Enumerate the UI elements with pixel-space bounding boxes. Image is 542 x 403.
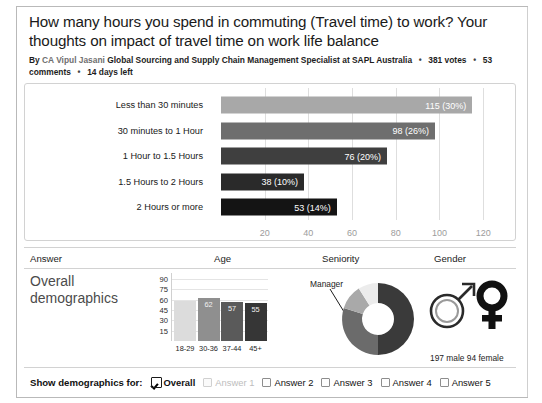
age-bar-45+[interactable]: 55 xyxy=(245,303,267,341)
demographics-option-label: Overall xyxy=(163,377,195,388)
bar-category-label: 30 minutes to 1 Hour xyxy=(25,126,211,136)
bar-row: Less than 30 minutes115 (30%) xyxy=(25,92,515,118)
card-frame: How many hours you spend in commuting (T… xyxy=(16,6,528,398)
age-y-tick-60: 60 xyxy=(150,295,168,304)
days-left: 14 days left xyxy=(87,67,133,77)
bar-value-label: 115 (30%) xyxy=(425,100,466,110)
demographics-option-answer-1[interactable]: Answer 1 xyxy=(203,377,254,388)
bar-segment[interactable]: 53 (14%) xyxy=(221,199,337,216)
bar-category-label: 2 Hours or more xyxy=(25,202,211,212)
column-header-gender: Gender xyxy=(434,253,466,264)
seniority-donut-chart: Manager xyxy=(310,271,430,366)
bar-row: 30 minutes to 1 Hour98 (26%) xyxy=(25,118,515,144)
demographics-option-label: Answer 2 xyxy=(274,377,313,388)
age-y-tick-15: 15 xyxy=(150,326,168,335)
bar-value-label: 76 (20%) xyxy=(344,151,381,161)
bar-segment[interactable]: 76 (20%) xyxy=(221,148,387,165)
vote-count: 381 votes xyxy=(428,55,466,65)
age-y-tick-75: 75 xyxy=(150,285,168,294)
checkbox-icon[interactable] xyxy=(321,378,330,387)
bar-chart-plot-area: 20406080100120Less than 30 minutes115 (3… xyxy=(25,84,515,240)
bar-segment[interactable]: 115 (30%) xyxy=(221,97,472,114)
demographics-option-overall[interactable]: Overall xyxy=(151,377,195,388)
manager-annotation-label: Manager xyxy=(310,279,343,289)
age-category-label: 45+ xyxy=(245,344,267,353)
gender-symbols-svg xyxy=(424,273,516,335)
age-bar-value-label: 57 xyxy=(221,304,243,313)
bar-category-label: Less than 30 minutes xyxy=(25,100,211,110)
byline: By CA Vipul Jasani Global Sourcing and S… xyxy=(29,55,511,78)
bar-category-label: 1.5 Hours to 2 Hours xyxy=(25,177,211,187)
age-gridline-75 xyxy=(172,289,268,290)
age-bar-value-label: 55 xyxy=(245,305,267,314)
age-y-tick-30: 30 xyxy=(150,316,168,325)
demographics-option-label: Answer 4 xyxy=(393,377,432,388)
demographics-option-answer-5[interactable]: Answer 5 xyxy=(440,377,491,388)
bar-value-label: 98 (26%) xyxy=(393,126,430,136)
demographics-option-label: Answer 1 xyxy=(215,377,254,388)
checkbox-icon[interactable] xyxy=(440,378,449,387)
x-axis-tick-80: 80 xyxy=(391,228,401,238)
demographics-option-answer-2[interactable]: Answer 2 xyxy=(262,377,313,388)
female-symbol-icon xyxy=(480,284,504,329)
bar-value-label: 38 (10%) xyxy=(261,177,298,187)
checkbox-icon[interactable] xyxy=(381,378,390,387)
x-axis-tick-40: 40 xyxy=(303,228,313,238)
x-axis-tick-100: 100 xyxy=(432,228,447,238)
page-title: How many hours you spend in commuting (T… xyxy=(29,12,507,50)
gender-caption: 197 male 94 female xyxy=(430,353,504,363)
bar-segment[interactable]: 38 (10%) xyxy=(221,173,304,190)
bar-row: 1 Hour to 1.5 Hours76 (20%) xyxy=(25,143,515,169)
bar-segment[interactable]: 98 (26%) xyxy=(221,122,435,139)
donut-slice-manager xyxy=(342,308,378,355)
bar-value-label: 53 (14%) xyxy=(294,202,331,212)
demographics-option-answer-4[interactable]: Answer 4 xyxy=(381,377,432,388)
overall-demographics-label: Overall demographics xyxy=(30,273,148,307)
author-name[interactable]: CA Vipul Jasani xyxy=(42,55,105,65)
results-bar-chart: 20406080100120Less than 30 minutes115 (3… xyxy=(24,83,516,241)
age-bar-30-36[interactable]: 62 xyxy=(198,298,220,341)
bar-category-label: 1 Hour to 1.5 Hours xyxy=(25,151,211,161)
age-category-label: 37-44 xyxy=(221,344,243,353)
age-y-axis xyxy=(171,273,172,341)
demographics-option-answer-3[interactable]: Answer 3 xyxy=(321,377,372,388)
byline-separator-1: • xyxy=(414,55,426,65)
column-header-seniority: Seniority xyxy=(322,253,359,264)
checkbox-icon[interactable] xyxy=(262,378,271,387)
byline-separator-2: • xyxy=(469,55,481,65)
byline-separator-3: • xyxy=(73,67,85,77)
age-y-tick-45: 45 xyxy=(150,306,168,315)
x-axis-tick-120: 120 xyxy=(476,228,491,238)
demographics-checkbox-group: OverallAnswer 1Answer 2Answer 3Answer 4A… xyxy=(151,377,498,388)
demographics-option-label: Answer 3 xyxy=(333,377,372,388)
bar-row: 1.5 Hours to 2 Hours38 (10%) xyxy=(25,169,515,195)
checkbox-checked-icon[interactable] xyxy=(151,378,160,387)
byline-prefix: By xyxy=(29,55,40,65)
column-header-age: Age xyxy=(214,253,231,264)
donut-group xyxy=(342,283,414,355)
age-y-tick-90: 90 xyxy=(150,275,168,284)
age-bar-value-label: 62 xyxy=(198,300,220,309)
author-title: Global Sourcing and Supply Chain Managem… xyxy=(107,55,412,65)
demographics-option-label: Answer 5 xyxy=(452,377,491,388)
demographics-header-row: Answer Age Seniority Gender xyxy=(24,247,516,269)
donut-slice-1 xyxy=(378,283,414,355)
column-header-answer: Answer xyxy=(30,253,62,264)
age-bar-18-29[interactable] xyxy=(174,301,196,341)
x-axis-tick-60: 60 xyxy=(347,228,357,238)
age-gridline-90 xyxy=(172,279,268,280)
show-demographics-label: Show demographics for: xyxy=(30,377,142,388)
gender-breakdown: 197 male 94 female xyxy=(424,273,516,365)
bar-row: 2 Hours or more53 (14%) xyxy=(25,194,515,220)
demographics-filter-bar: Show demographics for: OverallAnswer 1An… xyxy=(24,372,516,392)
male-symbol-icon xyxy=(431,284,474,327)
x-axis-tick-20: 20 xyxy=(260,228,270,238)
age-bar-37-44[interactable]: 57 xyxy=(221,302,243,341)
demographics-body: Overall demographics 15304560759018-2962… xyxy=(24,269,516,368)
checkbox-icon[interactable] xyxy=(203,378,212,387)
age-distribution-chart: 15304560759018-296230-365737-445545+ xyxy=(150,273,268,363)
age-category-label: 18-29 xyxy=(174,344,196,353)
poll-result-card: How many hours you spend in commuting (T… xyxy=(0,0,542,403)
age-category-label: 30-36 xyxy=(198,344,220,353)
